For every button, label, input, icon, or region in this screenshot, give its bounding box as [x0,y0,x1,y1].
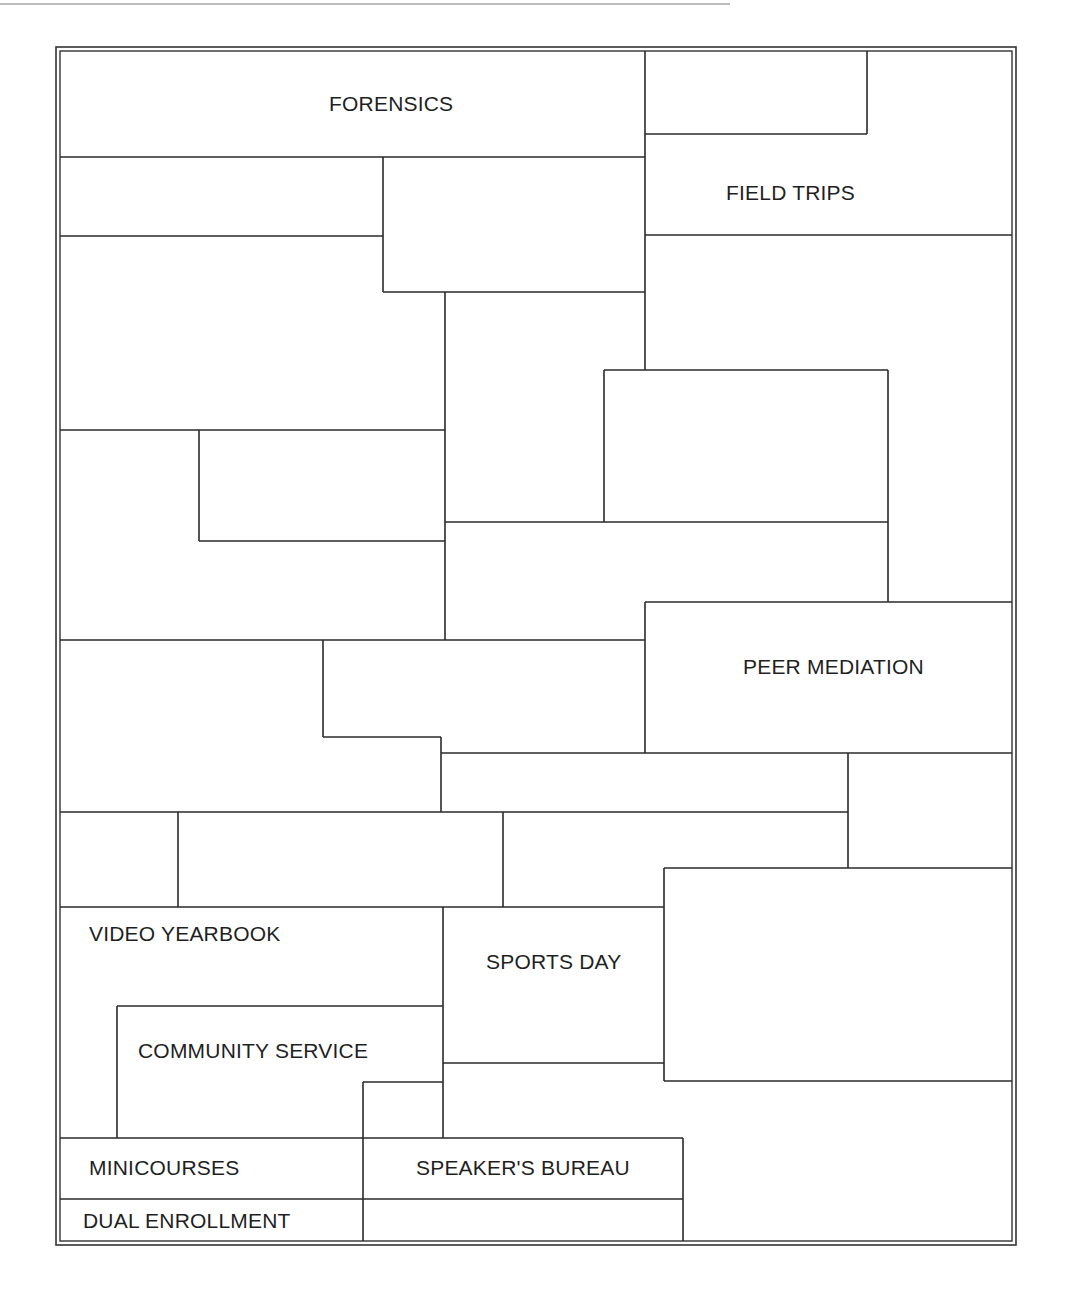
label-peer-mediation: PEER MEDIATION [743,656,924,677]
label-minicourses: MINICOURSES [89,1157,239,1178]
frame-outer-border [56,47,1016,1245]
label-forensics: FORENSICS [329,93,453,114]
brick-lines [60,51,1012,1241]
label-community-service: COMMUNITY SERVICE [138,1040,368,1061]
label-speakers-bureau: SPEAKER'S BUREAU [416,1157,630,1178]
brick-wall-diagram [0,0,1067,1296]
label-video-yearbook: VIDEO YEARBOOK [89,923,280,944]
label-field-trips: FIELD TRIPS [726,182,855,203]
label-sports-day: SPORTS DAY [486,951,621,972]
label-dual-enrollment: DUAL ENROLLMENT [83,1210,291,1231]
